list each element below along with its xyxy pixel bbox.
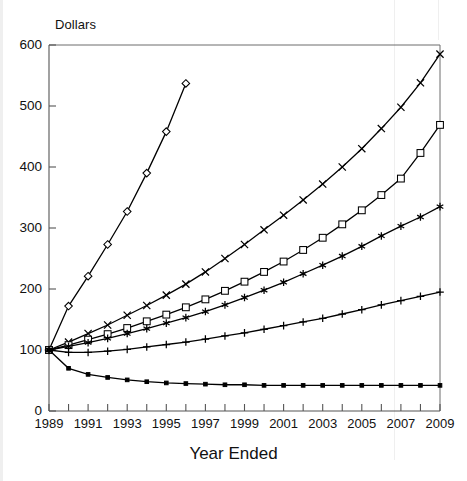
series-dot-marker — [243, 383, 247, 387]
series-asterisk-marker — [241, 294, 248, 302]
series-cross-marker — [221, 255, 228, 262]
series-cross-marker — [300, 196, 307, 203]
series-plus-marker — [319, 314, 327, 322]
data-series-group — [45, 51, 444, 388]
series-square-marker — [417, 150, 424, 157]
series-square-marker — [437, 122, 444, 129]
series-plus-marker — [417, 293, 425, 301]
series-plus-marker — [104, 347, 112, 355]
series-square-marker — [339, 221, 346, 228]
series-cross-marker — [280, 212, 287, 219]
series-asterisk-marker — [280, 278, 287, 286]
series-plus-marker — [260, 325, 268, 333]
series-asterisk-marker — [261, 286, 268, 294]
series-plus-marker — [397, 297, 405, 305]
series-diamond-marker — [163, 128, 171, 136]
series-plus-marker — [299, 318, 307, 326]
series-asterisk-marker — [222, 301, 229, 309]
series-dot-marker — [145, 380, 149, 384]
series-diamond-marker — [123, 208, 131, 216]
series-asterisk-marker — [358, 243, 365, 251]
series-asterisk-marker — [339, 252, 346, 260]
series-dot-marker — [86, 373, 90, 377]
series-asterisk-marker — [417, 213, 424, 221]
plot-area — [0, 0, 467, 481]
series-plus-marker — [84, 349, 92, 357]
series-plus-marker — [163, 341, 171, 349]
series-plus-marker — [338, 310, 346, 318]
axis-ticks — [49, 45, 440, 411]
series-plus-marker — [221, 332, 229, 340]
series-dot-marker — [419, 384, 423, 388]
series-square-marker — [241, 278, 248, 285]
series-dot-marker — [282, 384, 286, 388]
series-cross-marker — [104, 321, 111, 328]
series-dot-marker — [184, 382, 188, 386]
series-plus-marker — [358, 306, 366, 314]
series-cross-marker — [378, 125, 385, 132]
series-plus-marker — [378, 301, 386, 309]
series-asterisk-marker — [202, 308, 209, 316]
series-dot-marker — [301, 384, 305, 388]
series-asterisk-marker — [319, 261, 326, 269]
series-dot-marker — [106, 376, 110, 380]
series-plus-marker — [123, 346, 131, 354]
series-dot-marker — [47, 348, 51, 352]
series-cross-marker — [241, 241, 248, 248]
series-cross — [45, 51, 443, 354]
series-plus-marker — [143, 343, 151, 351]
series-cross-marker — [397, 104, 404, 111]
series-cross-marker — [124, 312, 131, 319]
series-square-marker — [319, 234, 326, 241]
series-asterisk-marker — [300, 270, 307, 278]
series-square-marker — [398, 175, 405, 182]
series-square-marker — [358, 207, 365, 214]
series-asterisk-marker — [437, 203, 444, 211]
series-square-marker — [163, 311, 170, 318]
series-cross-marker — [319, 180, 326, 187]
series-dot-marker — [380, 384, 384, 388]
series-dot-line — [49, 350, 440, 385]
plot-frame — [49, 45, 440, 411]
series-plus-marker — [65, 349, 73, 357]
series-diamond-line — [49, 83, 186, 350]
series-cross-marker — [143, 302, 150, 309]
chart-container: Dollars Year Ended 0100200300400500600 1… — [0, 0, 467, 481]
series-dot — [47, 348, 442, 387]
series-dot-marker — [321, 384, 325, 388]
series-dot-marker — [262, 384, 266, 388]
series-cross-marker — [202, 268, 209, 275]
series-dot-marker — [223, 383, 227, 387]
series-plus-marker — [182, 338, 190, 346]
series-square-marker — [202, 296, 209, 303]
series-diamond-marker — [84, 272, 92, 280]
series-asterisk-marker — [378, 232, 385, 240]
plot-frame-top-right — [49, 45, 440, 411]
series-plus-marker — [280, 322, 288, 330]
series-dot-marker — [340, 384, 344, 388]
series-cross-marker — [182, 281, 189, 288]
series-square-marker — [300, 247, 307, 254]
series-square-marker — [261, 269, 268, 276]
series-dot-marker — [399, 384, 403, 388]
series-square-marker — [222, 287, 229, 294]
series-square-marker — [378, 192, 385, 199]
series-cross-marker — [358, 145, 365, 152]
series-dot-marker — [165, 381, 169, 385]
series-cross-marker — [339, 163, 346, 170]
series-cross-marker — [417, 79, 424, 86]
series-plus-marker — [241, 329, 249, 337]
series-diamond-marker — [65, 302, 73, 310]
series-plus-marker — [436, 288, 444, 296]
series-cross-marker — [260, 226, 267, 233]
series-dot-marker — [438, 384, 442, 388]
series-dot-marker — [125, 378, 129, 382]
series-square-marker — [280, 258, 287, 265]
series-diamond-marker — [182, 80, 190, 88]
series-asterisk-marker — [398, 222, 405, 230]
series-cross-marker — [163, 292, 170, 299]
series-diamond-marker — [143, 169, 151, 177]
series-square-marker — [182, 304, 189, 311]
series-dot-marker — [204, 382, 208, 386]
series-dot-marker — [360, 384, 364, 388]
